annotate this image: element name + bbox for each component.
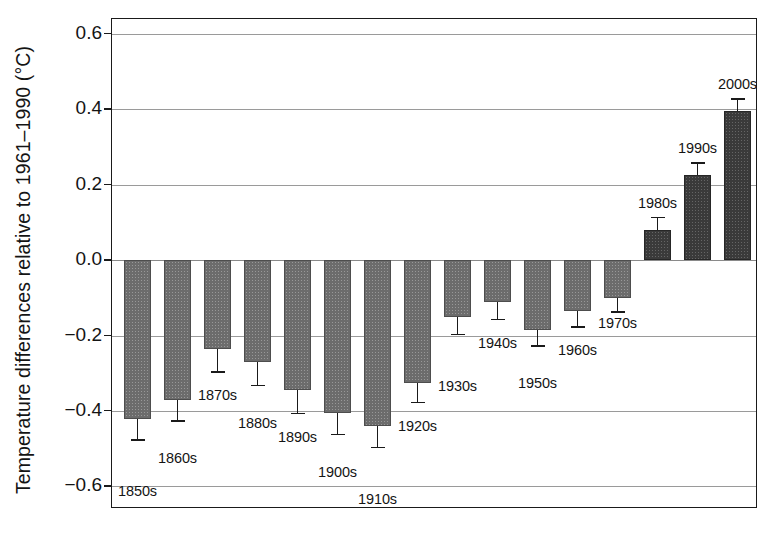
gridline-0.4 <box>112 109 756 110</box>
bar-1890s <box>284 260 311 390</box>
error-bar-cap-1910s <box>371 447 385 449</box>
bar-label-1950s: 1950s <box>518 375 557 391</box>
bar-label-1900s: 1900s <box>318 464 357 480</box>
error-bar-line-1950s <box>537 330 539 345</box>
bar-1990s <box>684 175 711 260</box>
bar-label-1980s: 1980s <box>638 195 677 211</box>
y-axis-title: Temperature differences relative to 1961… <box>0 0 46 540</box>
bar-label-1890s: 1890s <box>278 429 317 445</box>
error-bar-cap-1920s <box>411 402 425 404</box>
bar-label-1850s: 1850s <box>118 483 157 499</box>
bar-1850s <box>124 260 151 418</box>
error-bar-cap-1970s <box>611 311 625 313</box>
gridline-0.2 <box>112 185 756 186</box>
error-bar-cap-1950s <box>531 345 545 347</box>
gridline-−0.4 <box>112 411 756 412</box>
error-bar-cap-1870s <box>211 371 225 373</box>
bar-1920s <box>404 260 431 383</box>
error-bar-line-1910s <box>377 426 379 447</box>
bar-1870s <box>204 260 231 349</box>
error-bar-cap-1940s <box>491 319 505 321</box>
y-tick-label: 0.6 <box>46 22 102 44</box>
error-bar-cap-1930s <box>451 334 465 336</box>
bar-label-1920s: 1920s <box>398 418 437 434</box>
error-bar-cap-2000s <box>731 98 745 100</box>
bar-label-1880s: 1880s <box>238 415 277 431</box>
bar-1980s <box>644 230 671 260</box>
error-bar-line-1860s <box>177 400 179 421</box>
error-bar-line-1900s <box>337 413 339 434</box>
y-axis-tick-labels: 0.60.40.20.0−0.2−0.4−0.6 <box>46 0 102 540</box>
gridline-−0.6 <box>112 486 756 487</box>
error-bar-line-1970s <box>617 298 619 311</box>
y-tick-label: 0.4 <box>46 97 102 119</box>
bar-label-2000s: 2000s <box>718 76 757 92</box>
error-bar-cap-1850s <box>131 439 145 441</box>
error-bar-line-1920s <box>417 383 419 402</box>
error-bar-line-2000s <box>737 98 739 111</box>
error-bar-line-1850s <box>137 419 139 440</box>
error-bar-cap-1980s <box>651 217 665 219</box>
error-bar-line-1870s <box>217 349 219 372</box>
bar-label-1910s: 1910s <box>358 491 397 507</box>
bar-2000s <box>724 111 751 260</box>
error-bar-cap-1860s <box>171 420 185 422</box>
gridline-0.6 <box>112 34 756 35</box>
error-bar-line-1890s <box>297 390 299 413</box>
plot-area: 1850s1860s1870s1880s1890s1900s1910s1920s… <box>111 18 757 508</box>
bar-label-1930s: 1930s <box>438 378 477 394</box>
error-bar-cap-1900s <box>331 434 345 436</box>
figure-canvas: Temperature differences relative to 1961… <box>0 0 772 540</box>
bar-1860s <box>164 260 191 399</box>
error-bar-cap-1990s <box>691 162 705 164</box>
bar-1950s <box>524 260 551 330</box>
bar-label-1990s: 1990s <box>678 140 717 156</box>
bar-label-1960s: 1960s <box>558 342 597 358</box>
bar-1960s <box>564 260 591 311</box>
bar-label-1860s: 1860s <box>158 450 197 466</box>
error-bar-line-1980s <box>657 217 659 230</box>
y-tick-label: −0.4 <box>46 399 102 421</box>
error-bar-cap-1880s <box>251 385 265 387</box>
bar-1940s <box>484 260 511 301</box>
error-bar-line-1880s <box>257 362 259 385</box>
y-tick-label: −0.6 <box>46 474 102 496</box>
error-bar-cap-1890s <box>291 413 305 415</box>
y-tick-label: 0.2 <box>46 173 102 195</box>
bar-1880s <box>244 260 271 362</box>
error-bar-line-1930s <box>457 317 459 334</box>
error-bar-line-1960s <box>577 311 579 326</box>
bar-label-1870s: 1870s <box>198 387 237 403</box>
error-bar-cap-1960s <box>571 326 585 328</box>
bar-1910s <box>364 260 391 426</box>
error-bar-line-1940s <box>497 302 499 319</box>
bar-1930s <box>444 260 471 317</box>
bar-label-1940s: 1940s <box>478 335 517 351</box>
bar-1970s <box>604 260 631 298</box>
y-tick-label: −0.2 <box>46 324 102 346</box>
bar-label-1970s: 1970s <box>598 315 637 331</box>
bar-1900s <box>324 260 351 413</box>
error-bar-line-1990s <box>697 162 699 175</box>
y-tick-label: 0.0 <box>46 248 102 270</box>
